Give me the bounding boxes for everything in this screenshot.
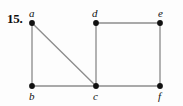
vertex-label-c: c — [93, 91, 98, 102]
graph-vertex-b — [29, 83, 35, 89]
graph-vertex-d — [93, 20, 99, 26]
graph-vertex-c — [93, 83, 99, 89]
vertex-label-b: b — [29, 91, 35, 102]
graph-vertex-e — [157, 20, 163, 26]
vertex-label-d: d — [92, 8, 98, 19]
edge-layer — [32, 23, 160, 86]
vertex-label-f: f — [158, 91, 161, 102]
graph-figure: 15. abcdef — [0, 0, 183, 106]
graph-vertex-f — [157, 83, 163, 89]
vertex-label-e: e — [158, 8, 163, 19]
vertex-label-a: a — [29, 8, 35, 19]
graph-edge-ac — [32, 23, 96, 86]
graph-vertex-a — [29, 20, 35, 26]
